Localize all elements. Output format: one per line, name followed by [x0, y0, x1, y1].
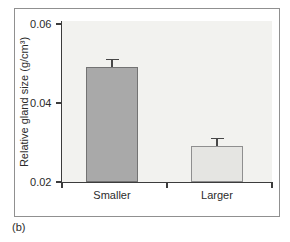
category-label: Smaller	[67, 189, 157, 201]
y-axis-title: Relative gland size (g/cm³)	[18, 37, 30, 167]
y-tick	[56, 23, 61, 25]
x-tick	[271, 183, 273, 188]
error-bar-cap	[106, 59, 119, 61]
y-axis	[61, 21, 63, 184]
panel-label: (b)	[12, 221, 25, 233]
y-tick	[56, 102, 61, 104]
figure-panel: 0.060.040.02SmallerLarger Relative gland…	[0, 0, 290, 242]
bar-larger	[191, 146, 243, 182]
error-bar-line	[111, 60, 113, 68]
x-tick	[166, 183, 168, 188]
y-tick-label: 0.06	[18, 18, 52, 30]
error-bar-line	[216, 139, 218, 147]
error-bar-cap	[211, 138, 224, 140]
category-label: Larger	[172, 189, 262, 201]
y-tick-label: 0.02	[18, 176, 52, 188]
x-tick	[61, 183, 63, 188]
bar-smaller	[86, 67, 138, 182]
y-tick	[56, 181, 61, 183]
